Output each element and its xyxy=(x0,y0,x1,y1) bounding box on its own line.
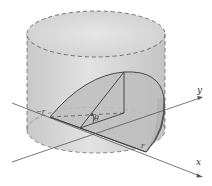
label-neg-r: −r xyxy=(36,108,46,116)
cylinder-wedge-diagram: −r r θ y x xyxy=(0,0,212,186)
label-y-axis: y xyxy=(196,85,203,95)
cylinder-top xyxy=(27,11,165,57)
x-axis-arrow xyxy=(197,174,204,178)
label-theta: θ xyxy=(94,114,99,123)
label-x-axis: x xyxy=(196,157,201,167)
y-axis-arrow xyxy=(197,96,203,100)
